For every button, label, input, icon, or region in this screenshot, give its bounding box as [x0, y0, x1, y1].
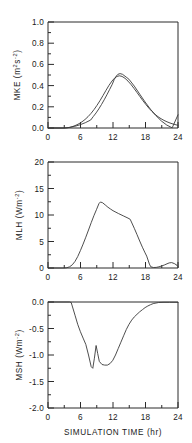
mke-ytick-labels: 0.0 0.2 0.4 0.6 0.8 1.0	[32, 18, 44, 133]
svg-text:MLH (Wm-2): MLH (Wm-2)	[14, 190, 24, 241]
msh-yunits-base: (Wm	[15, 339, 24, 358]
svg-text:MKE (m2s-2): MKE (m2s-2)	[12, 49, 22, 100]
mke-yunits-base: (m	[13, 67, 22, 78]
mlh-ytick-0: 0	[39, 264, 44, 273]
mke-ylabel: MKE (m2s-2)	[12, 49, 22, 100]
msh-ytick-labels: 0.0 -0.5 -1.0 -1.5 -2.0	[29, 298, 44, 413]
mlh-yunits-close: )	[15, 190, 24, 193]
msh-ylabel-name: MSH	[15, 361, 24, 381]
mke-axis-frame	[48, 22, 178, 128]
msh-ytick-2: -1.0	[29, 351, 44, 360]
msh-xtick-2: 12	[108, 413, 118, 422]
msh-ylabel: MSH (Wm-2)	[14, 329, 24, 380]
mlh-yticks	[48, 162, 54, 268]
mke-ytick-5: 1.0	[32, 18, 44, 27]
msh-xtick-3: 18	[141, 413, 151, 422]
panel-mke: 0.0 0.2 0.4 0.6 0.8 1.0 0 6 12 18 24 MKE…	[0, 0, 192, 148]
msh-yticks	[48, 302, 54, 408]
msh-xtick-1: 6	[78, 413, 83, 422]
mke-ytick-1: 0.2	[32, 103, 44, 112]
panel-msh: 0.0 -0.5 -1.0 -1.5 -2.0 0 6 12 18 24 MSH…	[0, 280, 192, 443]
mlh-ylabel: MLH (Wm-2)	[14, 190, 24, 241]
mke-curve	[48, 74, 178, 128]
figure-multipanel-timeseries: 0.0 0.2 0.4 0.6 0.8 1.0 0 6 12 18 24 MKE…	[0, 0, 192, 443]
mke-yticks	[48, 22, 54, 128]
msh-ytick-0: 0.0	[32, 298, 44, 307]
mlh-ytick-4: 20	[34, 158, 44, 167]
msh-ytick-3: -1.5	[29, 378, 44, 387]
svg-text:MSH (Wm-2): MSH (Wm-2)	[14, 329, 24, 380]
msh-curve	[48, 302, 178, 368]
shared-xaxis-label: SIMULATION TIME (hr)	[64, 428, 162, 437]
panel-mlh: 0 5 10 15 20 0 6 12 18 24 MLH (Wm-2)	[0, 140, 192, 288]
msh-ytick-1: -0.5	[29, 325, 44, 334]
mke-ytick-3: 0.6	[32, 60, 44, 69]
mlh-ytick-1: 5	[39, 238, 44, 247]
mke-ylabel-name: MKE	[13, 81, 22, 101]
mke-yunits-close: )	[13, 49, 22, 52]
mlh-ylabel-name: MLH	[15, 221, 24, 240]
msh-ytick-4: -2.0	[29, 404, 44, 413]
msh-yunits-close: )	[15, 329, 24, 332]
msh-xtick-0: 0	[46, 413, 51, 422]
mlh-ytick-2: 10	[34, 211, 44, 220]
mke-ytick-4: 0.8	[32, 39, 44, 48]
mke-ytick-2: 0.4	[32, 82, 44, 91]
msh-xtick-4: 24	[173, 413, 183, 422]
mlh-curve	[48, 202, 178, 268]
mlh-axis-frame	[48, 162, 178, 268]
mlh-yunits-base: (Wm	[15, 199, 24, 218]
mke-ytick-0: 0.0	[32, 124, 44, 133]
msh-xticks	[48, 402, 178, 408]
msh-axis-frame	[48, 302, 178, 408]
mlh-ytick-3: 15	[34, 185, 44, 194]
msh-xtick-labels: 0 6 12 18 24	[46, 413, 183, 422]
mke-xticks	[48, 122, 178, 128]
mlh-ytick-labels: 0 5 10 15 20	[34, 158, 44, 273]
